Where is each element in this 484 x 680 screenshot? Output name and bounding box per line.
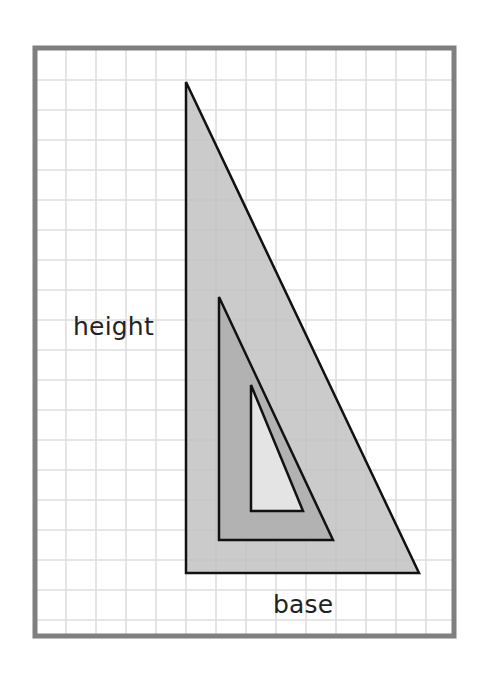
nested-triangles <box>186 82 419 573</box>
base-label: base <box>273 592 333 617</box>
height-label: height <box>73 314 154 339</box>
